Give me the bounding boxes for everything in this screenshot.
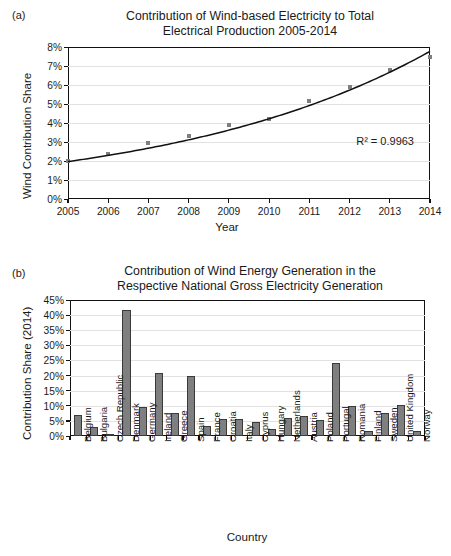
panel-a-title-line2: Electrical Production 2005-2014 [55,24,445,39]
x-tickmark [215,436,216,440]
x-tick-label: 2006 [97,206,120,217]
y-tickmark [66,390,70,391]
x-tickmark [148,199,149,203]
category-label: Denmark [130,403,141,442]
category-label: Austria [308,412,319,442]
y-tickmark [66,420,70,421]
category-label: Germany [146,403,157,442]
x-tickmark [150,436,151,440]
category-label: Ireland [162,413,173,442]
x-tick-label: 2007 [137,206,160,217]
category-label: Romania [356,404,367,442]
panel-a-plot-area: R² = 0.9963 [68,47,430,199]
x-tickmark [328,436,329,440]
panel-a-letter: (a) [12,9,25,21]
y-tick-label: 35% [44,325,64,336]
category-label: Portugal [340,406,351,442]
panel-a-x-axis-title: Year [215,220,238,233]
x-tick-label: 2005 [57,206,80,217]
category-label: Hungary [275,406,286,442]
panel-b-letter: (b) [12,267,25,279]
category-label: United Kingdom [404,374,415,442]
category-label: Czech Republic [114,375,125,442]
y-tick-label: 10% [44,400,64,411]
x-tickmark [269,199,270,203]
x-tick-label: 2009 [218,206,241,217]
panel-b-title-line1: Contribution of Wind Energy Generation i… [55,264,445,279]
x-tickmark [69,436,70,440]
panel-a-y-axis-title: Wind Contribution Share [20,73,33,199]
y-tick-label: 0% [49,431,64,442]
x-tick-label: 2014 [419,206,442,217]
y-tick-label: 20% [44,370,64,381]
x-tickmark [392,436,393,440]
category-label: France [211,412,222,442]
x-tickmark [424,436,425,440]
y-tickmark [66,345,70,346]
x-tickmark [228,199,229,203]
panel-b-y-axis-title: Contribution Share (2014) [20,307,33,440]
x-tickmark [311,436,312,440]
y-tickmark [66,405,70,406]
x-tick-label: 2010 [258,206,281,217]
bar [74,415,82,436]
x-tickmark [344,436,345,440]
y-tick-label: 7% [47,61,62,72]
x-tickmark [263,436,264,440]
category-label: Norway [421,409,432,442]
x-tickmark [86,436,87,440]
y-tickmark [66,330,70,331]
category-label: Sweden [388,407,399,442]
y-tick-label: 5% [49,415,64,426]
x-tickmark [360,436,361,440]
panel-a-trendline [68,47,430,199]
y-tick-label: 1% [47,175,62,186]
x-tick-label: 2011 [298,206,320,217]
category-label: Greece [178,411,189,442]
panel-a: (a) Contribution of Wind-based Electrici… [0,0,451,258]
x-tickmark [247,436,248,440]
panel-b-axis-left [70,300,71,436]
x-tickmark [429,199,430,203]
panel-a-title-line1: Contribution of Wind-based Electricity t… [55,9,445,24]
panel-b-axis-top [70,300,425,301]
y-tick-label: 2% [47,156,62,167]
x-tickmark [408,436,409,440]
category-label: Finland [372,411,383,442]
category-label: Italy [243,424,254,442]
y-tickmark [66,375,70,376]
x-tickmark [349,199,350,203]
x-tickmark [166,436,167,440]
x-tickmark [309,199,310,203]
category-label: Poland [324,412,335,442]
y-tick-label: 0% [47,194,62,205]
x-tickmark [102,436,103,440]
panel-b-x-axis-title: Country [227,530,268,543]
x-tickmark [188,199,189,203]
y-tick-label: 25% [44,355,64,366]
y-tick-label: 15% [44,385,64,396]
panel-b-title-line2: Respective National Gross Electricity Ge… [55,279,445,294]
x-tick-label: 2012 [338,206,361,217]
y-tick-label: 45% [44,295,64,306]
x-tickmark [295,436,296,440]
x-tickmark [182,436,183,440]
category-label: Bulgaria [98,407,109,442]
x-tick-label: 2008 [177,206,200,217]
x-tick-label: 2013 [378,206,401,217]
x-tickmark [231,436,232,440]
x-tickmark [67,199,68,203]
x-tickmark [118,436,119,440]
category-label: Spain [195,417,206,442]
y-tick-label: 5% [47,99,62,110]
panel-a-r2-annotation: R² = 0.9963 [356,135,414,147]
y-tick-label: 3% [47,137,62,148]
y-tick-label: 30% [44,340,64,351]
y-tickmark [66,360,70,361]
y-tick-label: 6% [47,80,62,91]
x-tickmark [198,436,199,440]
y-tickmark [66,315,70,316]
panel-b: (b) Contribution of Wind Energy Generati… [0,258,451,556]
y-tick-label: 40% [44,310,64,321]
x-tickmark [134,436,135,440]
